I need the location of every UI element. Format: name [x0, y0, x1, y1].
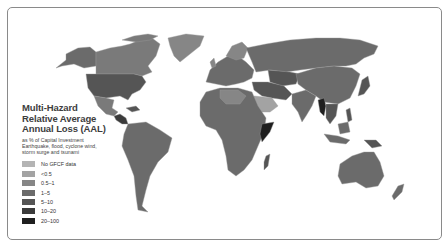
legend-label: 20–100 [41, 218, 59, 224]
region-southeast-asia [326, 104, 338, 124]
map-legend: Multi-Hazard Relative Average Annual Los… [22, 103, 132, 225]
region-myanmar [318, 98, 326, 116]
legend-item: 5–10 [22, 197, 132, 206]
legend-subtitle: as % of Capital Investment Earthquake, f… [22, 137, 132, 156]
legend-label: No GFCF data [41, 161, 76, 167]
region-madagascar [264, 154, 270, 170]
region-india [292, 90, 316, 122]
legend-swatch [22, 190, 35, 196]
legend-swatch [22, 199, 35, 205]
region-japan [358, 76, 370, 96]
legend-item: 20–100 [22, 216, 132, 225]
legend-title-line: Annual Loss (AAL) [22, 124, 132, 135]
legend-title: Multi-Hazard Relative Average Annual Los… [22, 103, 132, 135]
legend-swatch [22, 218, 35, 224]
region-alaska [56, 47, 96, 68]
region-scandinavia [226, 42, 248, 60]
legend-subtitle-line: storm surge and tsunami [22, 149, 132, 155]
region-canada [96, 38, 160, 76]
region-papua-new-guinea [364, 140, 382, 148]
region-new-zealand [392, 184, 404, 200]
legend-swatch [22, 180, 35, 186]
region-russia [246, 38, 378, 72]
legend-label: 5–10 [41, 199, 53, 205]
region-indonesia [324, 134, 350, 144]
legend-label: 0.5–1 [41, 180, 55, 186]
legend-swatch [22, 161, 35, 167]
region-philippines [346, 108, 352, 122]
legend-label: 10–20 [41, 208, 56, 214]
legend-item: 1–5 [22, 188, 132, 197]
legend-title-line: Multi-Hazard [22, 103, 132, 114]
legend-label: 1–5 [41, 190, 50, 196]
region-uk [210, 58, 216, 68]
region-borneo [338, 122, 350, 134]
legend-item: No GFCF data [22, 160, 132, 169]
region-greenland [168, 34, 204, 62]
legend-item: 10–20 [22, 207, 132, 216]
region-australia [338, 152, 384, 188]
legend-swatch [22, 171, 35, 177]
legend-item: <0.5 [22, 169, 132, 178]
legend-swatch [22, 208, 35, 214]
legend-item: 0.5–1 [22, 179, 132, 188]
legend-label: <0.5 [41, 171, 52, 177]
region-somalia [260, 122, 274, 142]
legend-classes: No GFCF data <0.5 0.5–1 1–5 5–10 10–20 2… [22, 160, 132, 226]
